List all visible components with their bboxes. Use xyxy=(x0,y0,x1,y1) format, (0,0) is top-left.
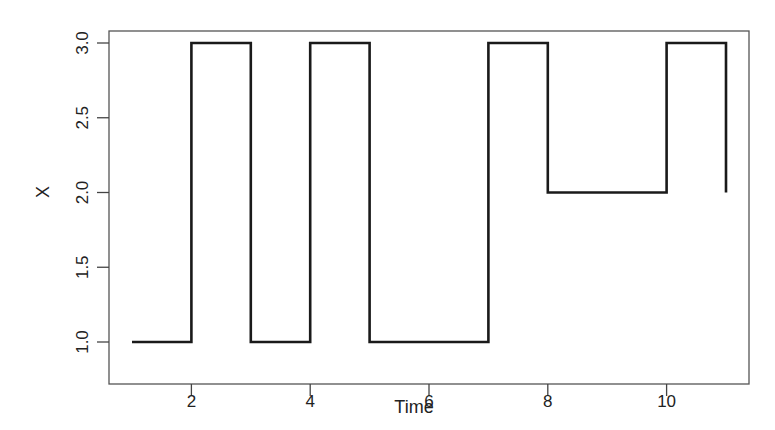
y-axis-title: X xyxy=(33,186,53,198)
x-tick-label: 2 xyxy=(187,392,196,411)
y-tick-label: 1.5 xyxy=(73,255,92,279)
y-tick-label: 2.0 xyxy=(73,181,92,205)
x-tick-label: 8 xyxy=(543,392,552,411)
x-tick-label: 4 xyxy=(305,392,314,411)
x-tick-label: 10 xyxy=(657,392,676,411)
y-axis: 1.01.52.02.53.0 xyxy=(73,31,109,354)
y-tick-label: 2.5 xyxy=(73,106,92,130)
data-line xyxy=(132,43,726,342)
plot-frame xyxy=(109,31,749,384)
y-tick-label: 1.0 xyxy=(73,330,92,354)
x-axis-title: Time xyxy=(394,397,433,417)
y-tick-label: 3.0 xyxy=(73,31,92,55)
step-chart: 1.01.52.02.53.0 246810 Time X xyxy=(0,0,775,430)
